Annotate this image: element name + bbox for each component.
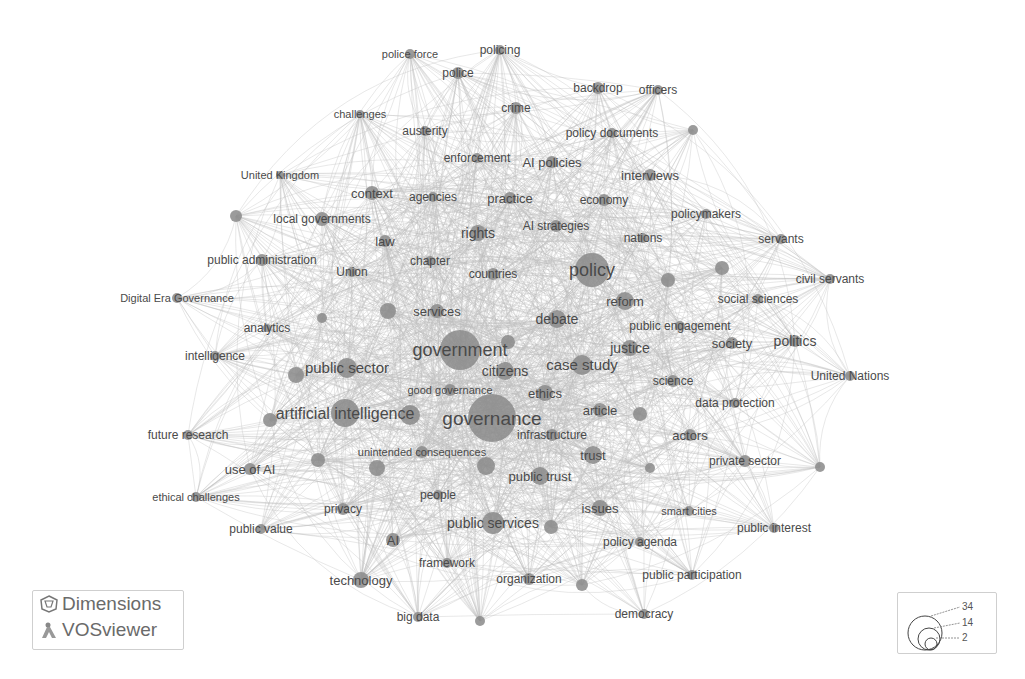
node-label: policy: [569, 260, 615, 280]
node-label: actors: [672, 428, 708, 443]
node-label: policing: [480, 43, 521, 57]
dimensions-brand: Dimensions: [33, 591, 183, 617]
node-label: agencies: [409, 190, 457, 204]
node-label: artificial intelligence: [276, 405, 415, 422]
node-label: governance: [442, 408, 541, 429]
node-label: public sector: [305, 359, 389, 376]
network-node[interactable]: [230, 210, 242, 222]
node-label: politics: [774, 333, 817, 349]
vosviewer-label: VOSviewer: [62, 619, 157, 641]
node-label: public trust: [509, 469, 572, 484]
node-label: use of AI: [225, 462, 276, 477]
node-label: social sciences: [718, 292, 799, 306]
size-legend: 34 14 2: [897, 592, 997, 654]
network-node[interactable]: [661, 273, 675, 287]
network-node[interactable]: [544, 520, 558, 534]
node-label: smart cities: [661, 505, 717, 517]
node-label: chapter: [410, 254, 450, 268]
node-label: data protection: [695, 396, 774, 410]
node-label: infrastructure: [517, 428, 587, 442]
node-label: countries: [469, 267, 518, 281]
node-label: ethical challenges: [152, 491, 240, 503]
node-label: public participation: [642, 568, 741, 582]
network-edge: [795, 341, 820, 467]
node-label: society: [712, 336, 753, 351]
size-legend-circles-icon: 34 14 2: [898, 593, 996, 653]
node-label: United Nations: [811, 369, 890, 383]
dimensions-label: Dimensions: [62, 593, 161, 615]
node-label: civil servants: [796, 272, 865, 286]
legend-max: 34: [962, 601, 974, 612]
node-label: reform: [606, 294, 644, 309]
node-label: public value: [229, 522, 293, 536]
network-node[interactable]: [645, 463, 655, 473]
branding-box: Dimensions VOSviewer: [32, 590, 184, 650]
node-label: crime: [501, 101, 531, 115]
node-label: debate: [536, 311, 579, 327]
node-label: policymakers: [671, 207, 741, 221]
node-label: unintended consequences: [358, 446, 487, 458]
node-label: analytics: [244, 321, 291, 335]
network-graph: policingpolice forcepolicebackdropoffice…: [0, 0, 1025, 679]
node-label: organization: [496, 572, 561, 586]
node-label: law: [375, 234, 395, 249]
node-label: democracy: [615, 607, 674, 621]
dimensions-logo-icon: [39, 595, 59, 613]
node-label: privacy: [324, 502, 362, 516]
node-label: backdrop: [573, 81, 623, 95]
node-label: technology: [330, 573, 393, 588]
network-edge: [418, 614, 644, 617]
node-label: nations: [624, 231, 663, 245]
node-label: policy documents: [566, 126, 659, 140]
network-node[interactable]: [288, 367, 304, 383]
node-label: police: [442, 66, 474, 80]
legend-min: 2: [962, 632, 968, 643]
node-label: police force: [382, 48, 438, 60]
node-label: case study: [546, 356, 618, 373]
node-label: challenges: [334, 108, 387, 120]
network-node[interactable]: [317, 313, 327, 323]
node-label: government: [412, 340, 507, 360]
network-node[interactable]: [475, 616, 485, 626]
node-label: policy agenda: [603, 535, 677, 549]
node-label: austerity: [402, 124, 447, 138]
node-label: AI: [387, 533, 399, 548]
node-label: intelligence: [185, 349, 245, 363]
node-label: framework: [419, 556, 476, 570]
node-label: services: [413, 304, 461, 319]
network-node[interactable]: [477, 457, 495, 475]
legend-mid: 14: [962, 617, 974, 628]
node-label: justice: [609, 340, 650, 356]
node-label: AI policies: [522, 155, 582, 170]
node-label: private sector: [709, 454, 781, 468]
network-node[interactable]: [715, 261, 729, 275]
node-label: big data: [397, 610, 440, 624]
network-node[interactable]: [688, 125, 698, 135]
network-node[interactable]: [633, 407, 647, 421]
network-node[interactable]: [576, 579, 588, 591]
network-node[interactable]: [369, 460, 385, 476]
node-label: economy: [580, 193, 629, 207]
node-label: Digital Era Governance: [120, 292, 234, 304]
vosviewer-brand: VOSviewer: [33, 617, 183, 643]
node-label: article: [583, 403, 618, 418]
node-label: public services: [447, 515, 539, 531]
network-node[interactable]: [311, 453, 325, 467]
node-label: context: [351, 186, 393, 201]
node-label: science: [653, 374, 694, 388]
node-label: public engagement: [629, 319, 731, 333]
vosviewer-logo-icon: [39, 621, 59, 639]
node-label: enforcement: [444, 151, 511, 165]
node-label: issues: [582, 501, 619, 516]
node-label: interviews: [621, 168, 679, 183]
network-node[interactable]: [380, 303, 396, 319]
node-label: local governments: [273, 212, 370, 226]
node-label: public administration: [207, 253, 316, 267]
network-node[interactable]: [815, 462, 825, 472]
node-label: Union: [336, 265, 367, 279]
node-label: United Kingdom: [241, 169, 319, 181]
node-label: public interest: [737, 521, 812, 535]
node-label: AI strategies: [523, 219, 590, 233]
node-label: servants: [758, 232, 803, 246]
network-edge: [820, 376, 850, 467]
